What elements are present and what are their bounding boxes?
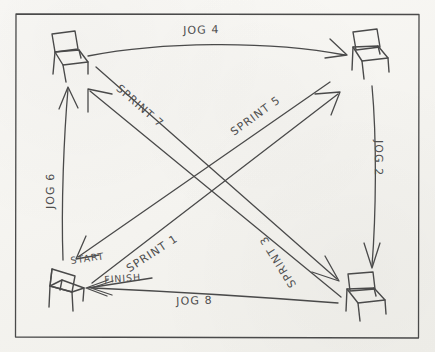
route-label-jog-8: JOG 8 xyxy=(176,294,213,308)
diagram-page: JOG 4 JOG 2 JOG 8 JOG 6 SPRINT 1 SPRINT … xyxy=(0,0,435,352)
chair-top-left xyxy=(52,31,88,82)
route-jog-4 xyxy=(88,39,347,58)
route-label-jog-2: JOG 2 xyxy=(372,140,385,176)
route-jog-2 xyxy=(364,86,380,268)
route-label-jog-4: JOG 4 xyxy=(183,23,220,37)
diagram-canvas xyxy=(0,0,435,352)
route-jog-6 xyxy=(59,87,78,260)
diagram-border xyxy=(16,14,420,338)
chair-bottom-left xyxy=(49,269,84,311)
chair-bottom-right xyxy=(346,272,386,321)
route-sprint-1 xyxy=(76,82,330,259)
route-sprint-5 xyxy=(92,92,340,283)
route-label-jog-6: JOG 6 xyxy=(44,173,57,209)
chair-top-right xyxy=(352,29,389,79)
